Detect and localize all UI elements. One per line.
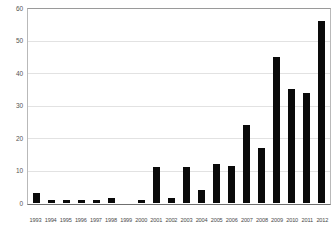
- bar-slot: [179, 10, 194, 203]
- x-slot: 1997: [88, 208, 103, 226]
- x-slot: 2004: [194, 208, 209, 226]
- x-slot: 2012: [315, 208, 330, 226]
- x-slot: 1995: [58, 208, 73, 226]
- x-slot: 2005: [209, 208, 224, 226]
- bar-slot: [89, 10, 104, 203]
- bar-2008: [258, 148, 265, 203]
- x-axis-tick-2002: 2002: [165, 217, 177, 223]
- x-axis-tick-2000: 2000: [135, 217, 147, 223]
- bar-slot: [209, 10, 224, 203]
- y-axis-tick-20: 20: [1, 135, 23, 142]
- bar-1996: [78, 200, 85, 203]
- bar-2003: [183, 167, 190, 203]
- bar-2000: [138, 200, 145, 203]
- bar-2010: [288, 89, 295, 203]
- x-slot: 2009: [270, 208, 285, 226]
- x-slot: 2006: [224, 208, 239, 226]
- bar-1997: [93, 200, 100, 203]
- bar-slot: [224, 10, 239, 203]
- x-slot: 1998: [103, 208, 118, 226]
- x-axis-labels: 1993 1994 1995 1996 1997 1998 1999 2000 …: [28, 208, 330, 226]
- x-axis-tick-1998: 1998: [105, 217, 117, 223]
- x-axis-tick-2012: 2012: [316, 217, 328, 223]
- bar-1995: [63, 200, 70, 203]
- bar-slot: [284, 10, 299, 203]
- x-slot: 1994: [43, 208, 58, 226]
- x-axis-tick-2003: 2003: [181, 217, 193, 223]
- x-axis-tick-2009: 2009: [271, 217, 283, 223]
- plot-area: [27, 8, 331, 205]
- y-axis-tick-40: 40: [1, 70, 23, 77]
- y-axis-tick-0: 0: [1, 200, 23, 207]
- bar-slot: [104, 10, 119, 203]
- bar-group: [29, 10, 329, 203]
- x-slot: 2008: [254, 208, 269, 226]
- x-axis-tick-2004: 2004: [196, 217, 208, 223]
- x-slot: 2003: [179, 208, 194, 226]
- x-slot: 2001: [149, 208, 164, 226]
- bar-2011: [303, 93, 310, 204]
- x-axis-tick-1994: 1994: [45, 217, 57, 223]
- x-axis-tick-1999: 1999: [120, 217, 132, 223]
- bar-1993: [33, 193, 40, 203]
- bar-slot: [299, 10, 314, 203]
- x-axis-tick-2007: 2007: [241, 217, 253, 223]
- bar-2001: [153, 167, 160, 203]
- x-slot: 2007: [239, 208, 254, 226]
- x-axis-tick-2011: 2011: [302, 217, 313, 223]
- x-slot: 1999: [119, 208, 134, 226]
- bar-1998: [108, 198, 115, 203]
- x-slot: 2000: [134, 208, 149, 226]
- bar-2006: [228, 166, 235, 203]
- x-slot: 2002: [164, 208, 179, 226]
- x-slot: 2011: [300, 208, 315, 226]
- y-axis-tick-60: 60: [1, 5, 23, 12]
- x-slot: 1993: [28, 208, 43, 226]
- bar-slot: [239, 10, 254, 203]
- bar-slot: [74, 10, 89, 203]
- bar-slot: [194, 10, 209, 203]
- bar-2012: [318, 21, 325, 203]
- x-axis-tick-2010: 2010: [286, 217, 298, 223]
- bar-slot: [149, 10, 164, 203]
- x-slot: 2010: [285, 208, 300, 226]
- bar-slot: [269, 10, 284, 203]
- bar-2007: [243, 125, 250, 203]
- bar-2004: [198, 190, 205, 203]
- x-slot: 1996: [73, 208, 88, 226]
- y-axis-tick-10: 10: [1, 167, 23, 174]
- x-axis-tick-2005: 2005: [211, 217, 223, 223]
- x-axis-tick-1997: 1997: [90, 217, 102, 223]
- x-axis-tick-2001: 2001: [150, 217, 162, 223]
- bar-2009: [273, 57, 280, 203]
- bar-slot: [134, 10, 149, 203]
- x-axis-tick-1993: 1993: [30, 217, 42, 223]
- bar-slot: [59, 10, 74, 203]
- bar-2005: [213, 164, 220, 203]
- bar-2002: [168, 198, 175, 203]
- bar-slot: [119, 10, 134, 203]
- x-axis-tick-2006: 2006: [226, 217, 238, 223]
- bar-slot: [314, 10, 329, 203]
- bar-slot: [164, 10, 179, 203]
- bar-slot: [44, 10, 59, 203]
- y-axis-tick-50: 50: [1, 37, 23, 44]
- bar-chart: 0 10 20 30 40 50 60 1993 1994 1995 1996 …: [0, 0, 336, 232]
- x-axis-tick-2008: 2008: [256, 217, 268, 223]
- y-axis-tick-30: 30: [1, 102, 23, 109]
- bar-1994: [48, 200, 55, 203]
- bar-slot: [254, 10, 269, 203]
- x-axis-tick-1995: 1995: [60, 217, 72, 223]
- x-axis-tick-1996: 1996: [75, 217, 87, 223]
- bar-slot: [29, 10, 44, 203]
